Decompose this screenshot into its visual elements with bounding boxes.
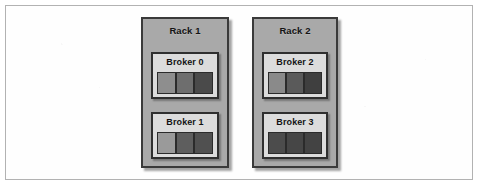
partition-square <box>194 72 213 94</box>
broker-3-label: Broker 3 <box>264 118 326 127</box>
partition-square <box>268 72 286 94</box>
broker-0-partitions <box>157 71 213 95</box>
partition-square <box>157 132 176 154</box>
broker-1-label: Broker 1 <box>153 118 217 127</box>
partition-square <box>286 72 304 94</box>
broker-0-container: Broker 0 <box>151 52 219 99</box>
rack-1-label: Rack 1 <box>143 26 227 36</box>
rack-2-label: Rack 2 <box>254 26 336 36</box>
broker-2-partitions <box>268 71 322 95</box>
rack-2-container: Rack 2 Broker 2 Broker 3 <box>252 17 338 168</box>
broker-1-container: Broker 1 <box>151 112 219 159</box>
partition-square <box>304 72 322 94</box>
partition-square <box>194 132 213 154</box>
rack-1-container: Rack 1 Broker 0 Broker 1 <box>141 17 229 168</box>
broker-0-label: Broker 0 <box>153 58 217 67</box>
partition-square <box>268 132 286 154</box>
broker-3-partitions <box>268 131 322 155</box>
partition-square <box>176 72 195 94</box>
broker-3-container: Broker 3 <box>262 112 328 159</box>
broker-1-partitions <box>157 131 213 155</box>
partition-square <box>157 72 176 94</box>
partition-square <box>176 132 195 154</box>
figure-frame: Rack 1 Broker 0 Broker 1 Rack 2 Broker 2 <box>5 5 473 180</box>
paper-texture <box>6 6 472 179</box>
partition-square <box>286 132 304 154</box>
partition-square <box>304 132 322 154</box>
broker-2-container: Broker 2 <box>262 52 328 99</box>
broker-2-label: Broker 2 <box>264 58 326 67</box>
